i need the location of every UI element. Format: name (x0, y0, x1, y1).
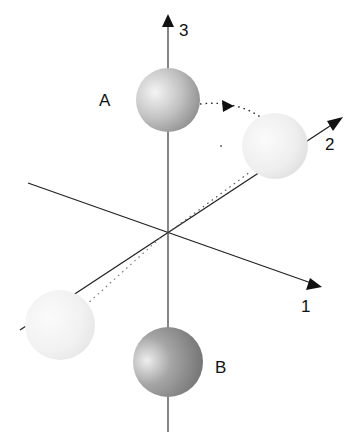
dotted-path-lower (172, 172, 250, 230)
axis-3-arrowhead-icon (162, 14, 174, 27)
sphere-ghost-left (25, 290, 95, 360)
sphere-a (136, 68, 200, 132)
axis-3-label: 3 (179, 21, 188, 40)
sphere-b-label: B (215, 358, 226, 377)
sphere-a-label: A (99, 91, 111, 110)
axis-1 (28, 183, 322, 290)
sphere-ghost-right (242, 113, 308, 179)
axis-1-label: 1 (301, 297, 310, 316)
rotation-arrowhead-icon (222, 100, 234, 112)
axis-2-label: 2 (325, 135, 334, 154)
axis-1-arrowhead-icon (306, 278, 322, 290)
dotted-path-left (86, 238, 160, 305)
axis-2-arrowhead-icon (327, 117, 343, 131)
rotation-diagram: 3 A 2 1 B (0, 0, 363, 448)
sphere-b (133, 327, 203, 397)
